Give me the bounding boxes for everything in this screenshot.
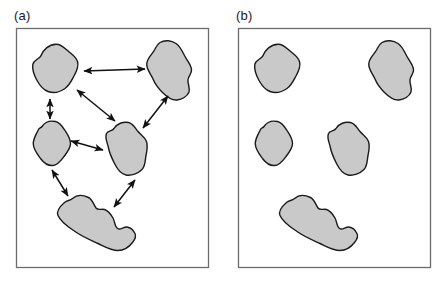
panel-a: (a) bbox=[0, 0, 219, 281]
panel-b-canvas bbox=[219, 0, 438, 281]
figure-habitat-connectivity: (a) (b) bbox=[0, 0, 439, 281]
panel-b: (b) bbox=[219, 0, 438, 281]
panel-a-canvas bbox=[0, 0, 219, 281]
